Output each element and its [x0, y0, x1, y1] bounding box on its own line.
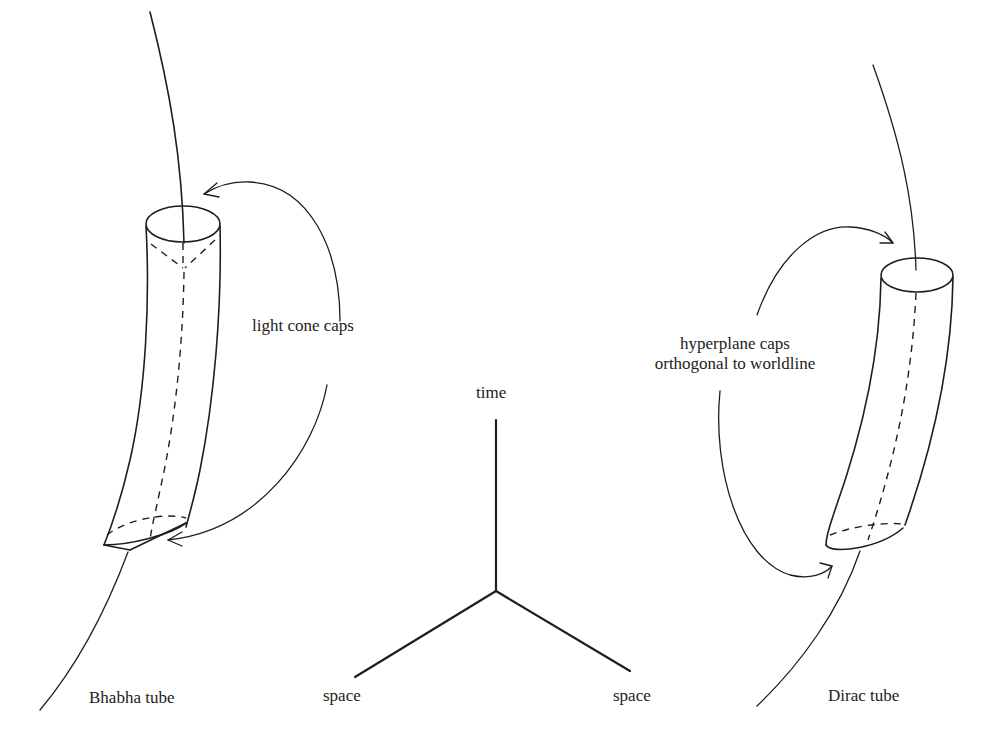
- bhabha-top-cone-left: [151, 244, 183, 268]
- dirac-worldline-lower: [757, 551, 860, 706]
- bhabha-bottom-cone-left: [104, 545, 130, 550]
- bhabha-tube-title: Bhabha tube: [89, 688, 174, 708]
- dirac-tube: [757, 65, 953, 706]
- bhabha-annotation-label: light cone caps: [252, 316, 354, 336]
- dirac-tube-title: Dirac tube: [828, 686, 899, 706]
- dirac-tube-right-edge: [905, 277, 953, 525]
- arrow-to-top-cap: [204, 182, 340, 321]
- bhabha-hidden-worldline: [150, 272, 184, 540]
- bhabha-tube-left-edge: [104, 226, 147, 545]
- bhabha-annotation-arrows: [168, 182, 340, 546]
- dirac-annotation-label-line2: orthogonal to worldline: [630, 354, 840, 374]
- space-axis-right-label: space: [613, 686, 651, 706]
- bhabha-bottom-rim-front: [104, 523, 186, 545]
- bhabha-tube: [40, 12, 220, 710]
- spacetime-axes: [355, 420, 630, 677]
- time-axis-label: time: [476, 383, 506, 403]
- dirac-tube-left-edge: [826, 278, 881, 545]
- bhabha-worldline-lower: [40, 552, 128, 710]
- dirac-hidden-worldline: [868, 293, 916, 540]
- arrow-to-bottom-cap: [168, 385, 327, 540]
- dirac-annotation-label-line1: hyperplane caps: [630, 334, 840, 354]
- space-axis-right: [496, 591, 630, 671]
- dirac-bottom-rim-front: [826, 528, 903, 550]
- dirac-bottom-rim-back: [830, 524, 903, 535]
- space-axis-left: [355, 591, 496, 677]
- space-axis-left-label: space: [323, 686, 361, 706]
- bhabha-tube-right-edge: [186, 226, 220, 527]
- spacetime-tube-diagram: light cone caps hyperplane caps orthogon…: [0, 0, 982, 737]
- bhabha-bottom-rim-back: [107, 516, 186, 535]
- arrow-to-dirac-top-cap: [757, 227, 893, 315]
- bhabha-bottom-cone-right: [130, 523, 186, 550]
- dirac-top-cap: [881, 258, 953, 292]
- arrow-to-dirac-bottom-cap: [719, 391, 832, 577]
- dirac-worldline-upper: [873, 65, 916, 270]
- bhabha-top-cone-right: [185, 240, 215, 268]
